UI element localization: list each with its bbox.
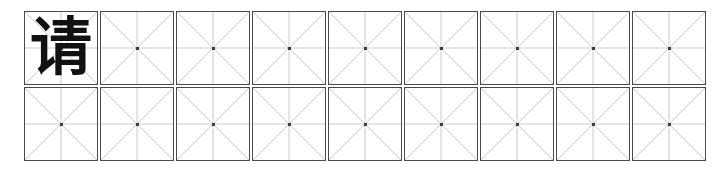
- mizige-guide-lines: [253, 12, 325, 84]
- practice-cell[interactable]: [252, 11, 326, 85]
- mizige-guide-lines: [481, 88, 553, 160]
- mizige-guide-lines: [405, 88, 477, 160]
- mizige-guide-lines: [481, 12, 553, 84]
- center-dot: [668, 123, 671, 126]
- mizige-guide-lines: [633, 12, 705, 84]
- center-dot: [212, 47, 215, 50]
- center-dot: [288, 47, 291, 50]
- center-dot: [364, 47, 367, 50]
- character-practice-worksheet: 请: [0, 0, 723, 180]
- center-dot: [212, 123, 215, 126]
- mizige-guide-lines: [557, 88, 629, 160]
- mizige-guide-lines: [329, 12, 401, 84]
- practice-cell[interactable]: [252, 87, 326, 161]
- mizige-guide-lines: [177, 88, 249, 160]
- center-dot: [592, 47, 595, 50]
- mizige-guide-lines: [177, 12, 249, 84]
- practice-cell[interactable]: [556, 87, 630, 161]
- practice-cell[interactable]: [632, 11, 706, 85]
- practice-cell[interactable]: [176, 11, 250, 85]
- center-dot: [60, 123, 63, 126]
- practice-cell[interactable]: [480, 87, 554, 161]
- mizige-guide-lines: [329, 88, 401, 160]
- practice-cell[interactable]: [328, 11, 402, 85]
- grid-row: [24, 87, 706, 161]
- center-dot: [136, 123, 139, 126]
- center-dot: [668, 47, 671, 50]
- mizige-guide-lines: [633, 88, 705, 160]
- practice-grid: 请: [24, 11, 706, 161]
- practice-cell[interactable]: [404, 87, 478, 161]
- center-dot: [440, 123, 443, 126]
- center-dot: [516, 47, 519, 50]
- practice-cell[interactable]: [632, 87, 706, 161]
- center-dot: [136, 47, 139, 50]
- practice-cell[interactable]: [328, 87, 402, 161]
- practice-cell[interactable]: [480, 11, 554, 85]
- practice-cell[interactable]: [404, 11, 478, 85]
- mizige-guide-lines: [25, 88, 97, 160]
- practice-cell[interactable]: [100, 87, 174, 161]
- practice-cell[interactable]: [100, 11, 174, 85]
- center-dot: [364, 123, 367, 126]
- practice-character: 请: [25, 12, 97, 84]
- practice-cell[interactable]: [176, 87, 250, 161]
- center-dot: [440, 47, 443, 50]
- mizige-guide-lines: [405, 12, 477, 84]
- mizige-guide-lines: [253, 88, 325, 160]
- practice-cell[interactable]: [24, 87, 98, 161]
- center-dot: [516, 123, 519, 126]
- center-dot: [288, 123, 291, 126]
- mizige-guide-lines: [101, 12, 173, 84]
- mizige-guide-lines: [557, 12, 629, 84]
- practice-cell[interactable]: [556, 11, 630, 85]
- center-dot: [592, 123, 595, 126]
- grid-row: 请: [24, 11, 706, 85]
- practice-cell[interactable]: 请: [24, 11, 98, 85]
- mizige-guide-lines: [101, 88, 173, 160]
